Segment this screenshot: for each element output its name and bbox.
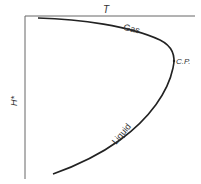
enthalpy-temperature-diagram: T H* Gas C.P. Liquid <box>0 0 201 184</box>
critical-point-label: C.P. <box>176 57 191 66</box>
liquid-label: Liquid <box>110 121 133 146</box>
x-axis-label: T <box>103 4 110 15</box>
saturation-curve <box>38 18 174 174</box>
gas-label: Gas <box>123 22 142 35</box>
y-axis-label: H* <box>9 96 19 106</box>
critical-point-marker <box>173 60 175 62</box>
